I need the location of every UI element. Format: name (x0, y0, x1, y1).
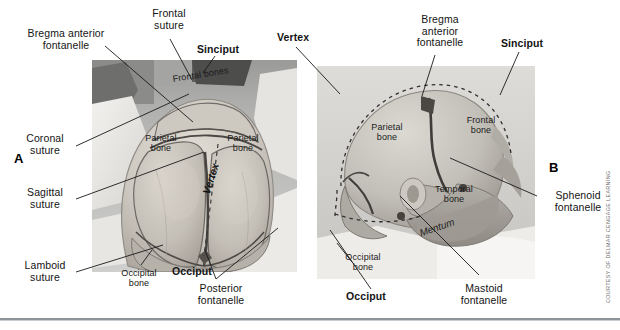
label-posterior-fontanelle: Posterior fontanelle (182, 283, 260, 306)
credit-line: COURTESY OF DELMAR CENGAGE LEARNING (605, 171, 611, 303)
panel-b-photo-svg (317, 66, 535, 279)
label-bregma-anterior-fontanelle-a: Bregma anterior fontanelle (16, 28, 116, 51)
panel-letter-b: B (549, 160, 558, 175)
panel-b-photograph (317, 66, 535, 279)
label-frontal-bone-b: Frontal bone (453, 115, 509, 135)
label-coronal-suture: Coronal suture (14, 133, 76, 156)
label-bregma-anterior-fontanelle-b: Bregma anterior fontanelle (405, 14, 475, 49)
label-frontal-suture: Frontal suture (135, 8, 203, 31)
label-parietal-bone-left: Parietal bone (133, 133, 189, 153)
label-occipital-bone-a: Occipital bone (110, 268, 168, 288)
label-parietal-bone-b: Parietal bone (358, 122, 416, 142)
bottom-rule (0, 318, 620, 321)
panel-a-photograph (92, 60, 297, 272)
label-temporal-bone-b: Temporal bone (423, 184, 485, 204)
label-sinciput-a: Sinciput (190, 44, 246, 56)
label-sinciput-b: Sinciput (494, 38, 550, 50)
bottom-rule-light (0, 320, 620, 321)
label-parietal-bone-right: Parietal bone (215, 133, 271, 153)
label-vertex-b: Vertex (277, 32, 309, 44)
label-sphenoid-fontanelle: Sphenoid fontanelle (542, 190, 614, 213)
panel-a-photo-svg (92, 60, 297, 272)
label-occiput-b: Occiput (346, 291, 386, 303)
label-mastoid-fontanelle: Mastoid fontanelle (446, 283, 522, 306)
figure-fetal-skull: A B Bregma anterior fontanelle Frontal s… (0, 0, 620, 330)
label-sagittal-suture: Sagittal suture (14, 187, 76, 210)
label-occiput-a: Occiput (172, 266, 212, 278)
label-occipital-bone-b: Occipital bone (334, 252, 392, 272)
label-lamboid-suture: Lamboid suture (14, 260, 76, 283)
